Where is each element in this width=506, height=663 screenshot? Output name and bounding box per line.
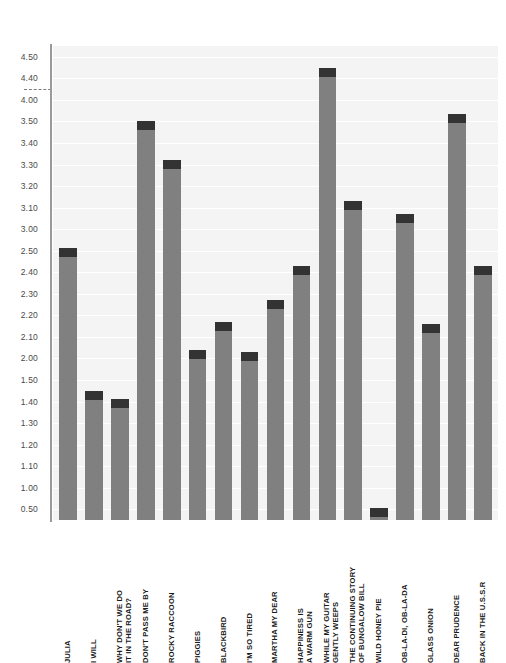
bar-slot <box>81 46 107 520</box>
y-axis-tick-label: 1.50 <box>21 375 38 385</box>
bar[interactable] <box>396 214 414 520</box>
bar[interactable] <box>241 352 259 520</box>
bar[interactable] <box>85 391 103 520</box>
y-axis-tick-label: 3.10 <box>21 203 38 213</box>
x-label-slot: BACK IN THE U.S.S.R <box>470 524 496 663</box>
bar-slot <box>55 46 81 520</box>
bar-cap <box>370 508 388 517</box>
x-axis-tick-label: OB-LA-DI, OB-LA-DA <box>401 528 410 663</box>
bar-slot <box>133 46 159 520</box>
bar-series <box>53 46 498 520</box>
x-axis-tick-label: HAPPINESS IS A WARM GUN <box>297 528 314 663</box>
x-label-slot: WILD HONEY PIE <box>366 524 392 663</box>
x-axis-tick-label: BACK IN THE U.S.S.R <box>479 528 488 663</box>
bar-cap <box>474 266 492 275</box>
x-axis-tick-label: ROCKY RACCOON <box>168 528 177 663</box>
bar-cap <box>163 160 181 169</box>
bar-cap <box>111 399 129 408</box>
y-axis-tick-label: 2.00 <box>21 353 38 363</box>
y-axis-tick-label: 3.30 <box>21 160 38 170</box>
bar-cap <box>267 300 285 309</box>
bar[interactable] <box>370 508 388 520</box>
bar[interactable] <box>474 266 492 520</box>
bar-cap <box>448 114 466 123</box>
bar[interactable] <box>422 324 440 520</box>
bar-slot <box>263 46 289 520</box>
bar-slot <box>211 46 237 520</box>
bar-cap <box>137 121 155 130</box>
x-label-slot: JULIA <box>55 524 81 663</box>
x-label-slot: HAPPINESS IS A WARM GUN <box>288 524 314 663</box>
bar[interactable] <box>215 322 233 520</box>
y-axis-tick-label: 1.40 <box>21 397 38 407</box>
x-label-slot: DON'T PASS ME BY <box>133 524 159 663</box>
y-axis-tick-label: 1.30 <box>21 418 38 428</box>
y-axis-tick-label: 4.50 <box>21 52 38 62</box>
y-axis-tick-label: 0.50 <box>21 504 38 514</box>
x-axis-tick-labels: JULIAI WILLWHY DON'T WE DO IT IN THE ROA… <box>53 524 498 663</box>
bar-chart: 4.504.404.003.503.403.303.203.103.002.50… <box>0 0 506 663</box>
x-label-slot: OB-LA-DI, OB-LA-DA <box>392 524 418 663</box>
y-axis-tick-label: 4.00 <box>21 95 38 105</box>
bar[interactable] <box>319 68 337 520</box>
x-axis-tick-label: WHY DON'T WE DO IT IN THE ROAD? <box>116 528 133 663</box>
bar[interactable] <box>448 114 466 520</box>
y-axis-tick-label: 4.40 <box>21 73 38 83</box>
y-axis-tick-label: 1.20 <box>21 440 38 450</box>
bar-slot <box>470 46 496 520</box>
x-axis-tick-label: GLASS ONION <box>427 528 436 663</box>
bar-slot <box>159 46 185 520</box>
x-axis-tick-label: PIGGIES <box>194 528 203 663</box>
bar-slot <box>107 46 133 520</box>
x-label-slot: THE CONTINUING STORY OF BUNGALOW BILL <box>340 524 366 663</box>
bar-cap <box>319 68 337 77</box>
bar-slot <box>444 46 470 520</box>
y-axis-tick-label: 1.10 <box>21 461 38 471</box>
bar[interactable] <box>293 266 311 520</box>
bar[interactable] <box>137 121 155 520</box>
x-axis-tick-label: I'M SO TIRED <box>246 528 255 663</box>
bar[interactable] <box>59 248 77 520</box>
x-axis-tick-label: JULIA <box>64 528 73 663</box>
bar-cap <box>189 350 207 359</box>
x-label-slot: MARTHA MY DEAR <box>263 524 289 663</box>
x-axis-tick-label: DON'T PASS ME BY <box>142 528 151 663</box>
bar-cap <box>344 201 362 210</box>
y-axis-tick-label: 3.50 <box>21 116 38 126</box>
y-axis-tick-label: 3.00 <box>21 224 38 234</box>
y-axis-tick-label: 3.20 <box>21 181 38 191</box>
bar-slot <box>340 46 366 520</box>
bar[interactable] <box>189 350 207 520</box>
bar-cap <box>215 322 233 331</box>
bar[interactable] <box>111 399 129 520</box>
bar-slot <box>314 46 340 520</box>
x-label-slot: I'M SO TIRED <box>237 524 263 663</box>
bar[interactable] <box>163 160 181 520</box>
x-axis-tick-label: THE CONTINUING STORY OF BUNGALOW BILL <box>349 528 366 663</box>
x-label-slot: GLASS ONION <box>418 524 444 663</box>
x-label-slot: WHY DON'T WE DO IT IN THE ROAD? <box>107 524 133 663</box>
bar-slot <box>185 46 211 520</box>
bar-slot <box>392 46 418 520</box>
x-axis-tick-label: WILD HONEY PIE <box>375 528 384 663</box>
x-axis-tick-label: WHILE MY GUITAR GENTLY WEEPS <box>323 528 340 663</box>
y-axis-tick-label: 2.20 <box>21 310 38 320</box>
bar-cap <box>85 391 103 400</box>
bar-cap <box>396 214 414 223</box>
x-axis-tick-label: I WILL <box>90 528 99 663</box>
y-axis-tick-label: 2.50 <box>21 246 38 256</box>
x-label-slot: WHILE MY GUITAR GENTLY WEEPS <box>314 524 340 663</box>
x-label-slot: BLACKBIRD <box>211 524 237 663</box>
plot-area <box>53 46 498 520</box>
x-label-slot: ROCKY RACCOON <box>159 524 185 663</box>
x-label-slot: DEAR PRUDENCE <box>444 524 470 663</box>
bar[interactable] <box>344 201 362 520</box>
y-axis-tick-label: 1.00 <box>21 483 38 493</box>
bar-slot <box>418 46 444 520</box>
y-axis-tick-label: 2.10 <box>21 332 38 342</box>
bar-cap <box>422 324 440 333</box>
bar[interactable] <box>267 300 285 520</box>
bar-slot <box>237 46 263 520</box>
x-label-slot: PIGGIES <box>185 524 211 663</box>
y-axis-tick-label: 2.30 <box>21 289 38 299</box>
